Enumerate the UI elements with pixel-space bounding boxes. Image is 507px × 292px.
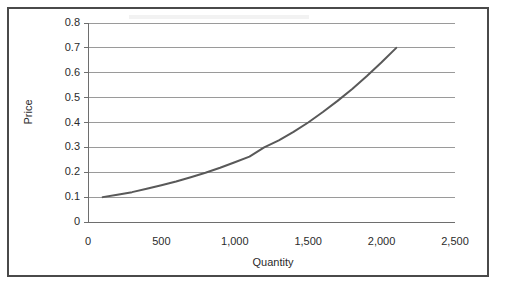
y-axis-title: Price [22, 82, 34, 142]
y-axis-tick-label: 0 [40, 216, 80, 227]
y-axis-tick-label: 0.4 [40, 117, 80, 128]
x-axis-tick-label: 0 [63, 236, 113, 247]
y-axis-tick-label: 0.7 [40, 42, 80, 53]
x-axis-tick-label: 2,500 [430, 236, 480, 247]
gridlines [88, 23, 455, 222]
y-axis-tick-label: 0.6 [40, 67, 80, 78]
y-axis-tick-label: 0.5 [40, 92, 80, 103]
x-axis-tick-label: 1,000 [210, 236, 260, 247]
x-axis-tick-label: 1,500 [283, 236, 333, 247]
y-axis-tick-label: 0.2 [40, 166, 80, 177]
x-axis-title: Quantity [88, 256, 458, 268]
x-axis-tick-label: 2,000 [357, 236, 407, 247]
y-axis-tick-label: 0.1 [40, 191, 80, 202]
y-axis-tick-label: 0.3 [40, 141, 80, 152]
x-axis-tick-label: 500 [136, 236, 186, 247]
y-axis-tick-label: 0.8 [40, 17, 80, 28]
